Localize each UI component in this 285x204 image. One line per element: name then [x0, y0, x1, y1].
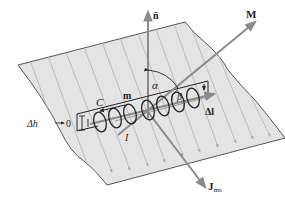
delta-h-limit-label: 0	[66, 118, 71, 129]
delta-h-label: Δh	[26, 118, 38, 129]
delta-l-label: Δl	[205, 106, 214, 117]
alpha-label: α	[152, 79, 158, 91]
beta-label: β	[176, 91, 182, 102]
diagram-svg: n̄ Jms Δh 0 M C m α β I Δl	[0, 0, 285, 204]
magnetization-label: M	[246, 8, 257, 20]
normal-label: n̄	[153, 10, 159, 21]
contour-label: C	[96, 96, 104, 108]
diagram-canvas: n̄ Jms Δh 0 M C m α β I Δl	[0, 0, 285, 204]
current-label: I	[124, 132, 129, 143]
surface-current-label: Jms	[208, 180, 222, 194]
m-label: m	[123, 90, 132, 101]
